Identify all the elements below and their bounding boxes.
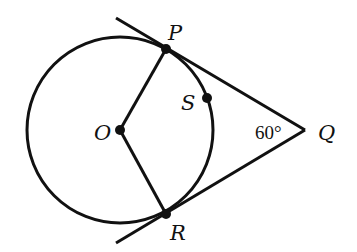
label-s: S [181, 91, 195, 115]
label-r: R [169, 221, 186, 245]
label-p: P [167, 21, 183, 45]
label-q: Q [318, 121, 335, 145]
point-r [161, 209, 171, 219]
radius-or [120, 130, 166, 214]
radius-op [120, 49, 166, 130]
angle-label-q: 60° [255, 122, 282, 143]
point-p [161, 44, 171, 54]
geometry-diagram: P O S Q R 60° [0, 0, 357, 252]
label-o: O [94, 121, 111, 145]
point-o [115, 125, 125, 135]
point-s [202, 93, 212, 103]
